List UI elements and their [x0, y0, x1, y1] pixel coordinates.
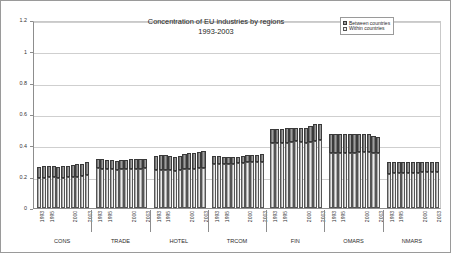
x-axis-year-label: 2000: [132, 211, 137, 222]
bar-segment-within: [115, 170, 119, 208]
bar-segment-between: [115, 161, 119, 170]
bar-segment-within: [343, 153, 347, 208]
bar-segment-between: [201, 151, 205, 168]
bar-segment-within: [371, 153, 375, 208]
bar-segment-within: [420, 172, 424, 208]
bar-segment-within: [255, 162, 259, 208]
bar-segment-within: [416, 173, 420, 208]
x-axis-group-separator: [91, 210, 92, 232]
bar-segment-between: [105, 160, 109, 169]
bar-omars-1997: [348, 134, 352, 208]
bar-nmars-1994: [392, 162, 396, 208]
bar-segment-within: [85, 175, 89, 208]
x-axis-group-separator: [324, 210, 325, 232]
bar-segment-between: [343, 134, 347, 153]
x-axis-year-label: 1993: [390, 211, 395, 222]
bar-segment-between: [348, 134, 352, 153]
bar-segment-within: [96, 168, 100, 208]
x-axis-group-separator: [150, 210, 151, 232]
bar-segment-within: [173, 171, 177, 208]
x-axis-year-label: 2000: [248, 211, 253, 222]
bar-segment-within: [212, 164, 216, 208]
bar-omars-1993: [329, 134, 333, 208]
bar-segment-within: [329, 153, 333, 208]
bar-cons-1993: [37, 166, 41, 208]
bar-segment-within: [411, 173, 415, 208]
bar-segment-between: [397, 162, 401, 173]
bar-segment-within: [236, 163, 240, 208]
bar-hotel-1993: [154, 156, 158, 208]
bar-segment-between: [178, 156, 182, 170]
bar-nmars-2001: [425, 162, 429, 208]
bar-fin-2001: [308, 126, 312, 208]
x-axis-group-label-hotel: HOTEL: [150, 239, 208, 245]
bar-segment-within: [387, 174, 391, 208]
bar-segment-between: [129, 159, 133, 169]
bar-segment-between: [187, 153, 191, 169]
bar-fin-2000: [304, 128, 308, 208]
bar-trcom-1994: [217, 156, 221, 208]
x-axis-year-label: 1995: [225, 211, 230, 222]
bar-trade-1999: [124, 160, 128, 208]
bar-segment-within: [376, 153, 380, 208]
bar-segment-within: [56, 178, 60, 208]
bar-segment-between: [96, 159, 100, 168]
bar-segment-between: [425, 162, 429, 173]
bar-omars-1996: [343, 134, 347, 208]
bar-cons-2003: [85, 162, 89, 208]
y-axis-tick-label: 1.2: [3, 18, 27, 23]
bar-segment-within: [285, 143, 289, 208]
bar-fin-2003: [318, 124, 322, 208]
bar-segment-between: [80, 164, 84, 177]
bar-segment-within: [245, 162, 249, 208]
bar-segment-between: [134, 159, 138, 169]
bar-trcom-1997: [231, 157, 235, 208]
x-axis-year-label: 2000: [365, 211, 370, 222]
legend-item-within[interactable]: Within countries: [343, 26, 390, 31]
bar-hotel-1998: [178, 156, 182, 208]
bar-fin-1993: [270, 129, 274, 208]
bar-segment-within: [119, 169, 123, 208]
bar-segment-between: [270, 129, 274, 142]
bar-hotel-2001: [192, 153, 196, 208]
bar-trade-2002: [138, 159, 142, 208]
bar-segment-within: [352, 153, 356, 208]
bar-segment-between: [289, 128, 293, 142]
bar-segment-within: [299, 142, 303, 208]
bar-cons-1996: [52, 166, 56, 208]
bar-trcom-2000: [245, 155, 249, 208]
bar-segment-between: [430, 162, 434, 173]
bar-trcom-2003: [260, 154, 264, 208]
chart-legend: Between countries Within countries: [340, 17, 394, 35]
bar-segment-between: [392, 162, 396, 173]
bar-segment-between: [313, 124, 317, 141]
bar-segment-within: [201, 168, 205, 208]
bar-segment-within: [231, 164, 235, 208]
bar-segment-between: [75, 164, 79, 176]
bar-segment-between: [110, 160, 114, 169]
bar-segment-between: [71, 165, 75, 177]
bar-segment-between: [435, 162, 439, 173]
bar-nmars-1993: [387, 162, 391, 208]
x-axis-year-label: 1993: [40, 211, 45, 222]
bar-segment-within: [348, 153, 352, 208]
bar-trcom-2001: [250, 155, 254, 208]
y-axis-tick-label: 0.6: [3, 112, 27, 117]
bar-segment-between: [401, 162, 405, 173]
bar-segment-between: [47, 166, 51, 177]
bar-segment-between: [100, 159, 104, 168]
bar-segment-within: [75, 177, 79, 208]
bar-segment-within: [275, 143, 279, 208]
bar-segment-within: [401, 173, 405, 208]
x-axis-year-label: 2000: [190, 211, 195, 222]
bar-segment-within: [100, 169, 104, 208]
bar-segment-between: [357, 134, 361, 152]
x-axis-year-label: 2000: [307, 211, 312, 222]
bar-segment-between: [52, 166, 56, 178]
bar-segment-between: [192, 153, 196, 169]
bar-omars-1995: [338, 134, 342, 208]
bar-segment-within: [159, 170, 163, 208]
bar-segment-within: [217, 164, 221, 208]
x-axis-group-label-cons: CONS: [33, 239, 91, 245]
bar-segment-within: [308, 142, 312, 208]
